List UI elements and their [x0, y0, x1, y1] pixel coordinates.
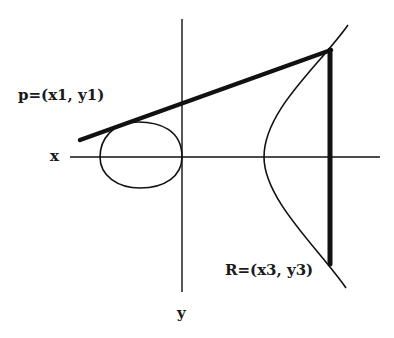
- x-axis-label: x: [50, 149, 59, 164]
- elliptic-curve-diagram: [0, 0, 394, 338]
- secant-line: [80, 50, 331, 140]
- point-p-label: p=(x1, y1): [18, 88, 104, 103]
- curve-loop: [100, 122, 182, 188]
- y-axis-label: y: [177, 306, 186, 321]
- point-r-label: R=(x3, y3): [225, 263, 313, 278]
